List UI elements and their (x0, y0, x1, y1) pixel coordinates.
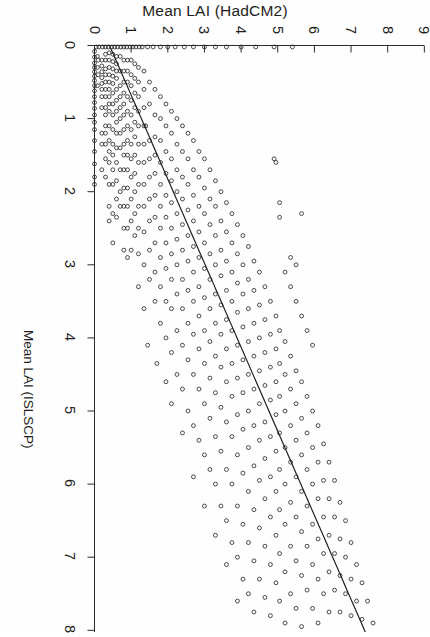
data-point (170, 252, 174, 256)
data-point (327, 570, 331, 574)
data-point (289, 500, 293, 504)
data-point (349, 541, 353, 545)
data-point (246, 307, 250, 311)
data-point (257, 438, 261, 442)
data-point (142, 142, 146, 146)
data-point (137, 285, 141, 289)
data-point (175, 117, 179, 121)
data-point (230, 299, 234, 303)
data-point (274, 380, 278, 384)
data-point (333, 552, 337, 556)
data-point (219, 248, 223, 252)
data-point (129, 128, 133, 132)
data-point (197, 230, 201, 234)
data-point (137, 161, 141, 165)
data-point (305, 394, 309, 398)
data-point (305, 329, 309, 333)
data-point (311, 606, 315, 610)
data-point (111, 212, 115, 216)
data-point (137, 142, 141, 146)
data-point (100, 64, 104, 68)
data-point (300, 625, 304, 629)
data-point (137, 226, 141, 230)
data-point (133, 135, 137, 139)
data-point (235, 252, 239, 256)
data-point (294, 263, 298, 267)
data-point (129, 73, 133, 77)
data-point (230, 270, 234, 274)
data-point (133, 234, 137, 238)
data-point (203, 157, 207, 161)
data-point (333, 478, 337, 482)
data-point (241, 522, 245, 526)
data-point (164, 336, 168, 340)
data-point (164, 380, 168, 384)
data-point (122, 248, 126, 252)
data-point (278, 468, 282, 472)
data-point (274, 161, 278, 165)
data-point (213, 204, 217, 208)
data-point (181, 150, 185, 154)
data-point (192, 270, 196, 274)
data-point (203, 453, 207, 457)
data-point (252, 387, 256, 391)
data-point (115, 120, 119, 124)
data-point (230, 482, 234, 486)
data-point (159, 182, 163, 186)
data-point (213, 179, 217, 183)
data-point (142, 230, 146, 234)
data-point (327, 460, 331, 464)
data-point (142, 307, 146, 311)
data-point (164, 267, 168, 271)
data-point (186, 321, 190, 325)
data-point (274, 347, 278, 351)
data-point (111, 91, 115, 95)
data-point (122, 142, 126, 146)
data-point (153, 299, 157, 303)
data-point (305, 588, 309, 592)
data-point (283, 409, 287, 413)
data-point (274, 449, 278, 453)
data-point (300, 453, 304, 457)
data-point (186, 182, 190, 186)
data-point (104, 113, 108, 117)
data-point (186, 409, 190, 413)
data-point (133, 120, 137, 124)
data-point (129, 113, 133, 117)
data-point (197, 314, 201, 318)
data-point (115, 109, 119, 113)
data-point (197, 204, 201, 208)
data-point (118, 95, 122, 99)
data-point (294, 299, 298, 303)
data-point (246, 340, 250, 344)
data-point (111, 168, 115, 172)
data-point (263, 383, 267, 387)
data-point (148, 219, 152, 223)
data-point (192, 139, 196, 143)
data-point (274, 413, 278, 417)
data-point (133, 190, 137, 194)
data-point (289, 285, 293, 289)
data-point (338, 500, 342, 504)
data-point (241, 325, 245, 329)
data-point (235, 599, 239, 603)
data-point (111, 153, 115, 157)
data-point (219, 274, 223, 278)
data-point (181, 431, 185, 435)
data-point (203, 296, 207, 300)
data-point (305, 504, 309, 508)
data-point (246, 489, 250, 493)
data-point (278, 599, 282, 603)
data-point (283, 482, 287, 486)
data-point (126, 95, 130, 99)
data-point (241, 391, 245, 395)
data-point (148, 277, 152, 281)
data-point (153, 270, 157, 274)
data-point (219, 405, 223, 409)
data-point (170, 109, 174, 113)
data-point (164, 215, 168, 219)
data-point (241, 358, 245, 362)
data-point (360, 581, 364, 585)
data-point (142, 182, 146, 186)
data-point (153, 171, 157, 175)
